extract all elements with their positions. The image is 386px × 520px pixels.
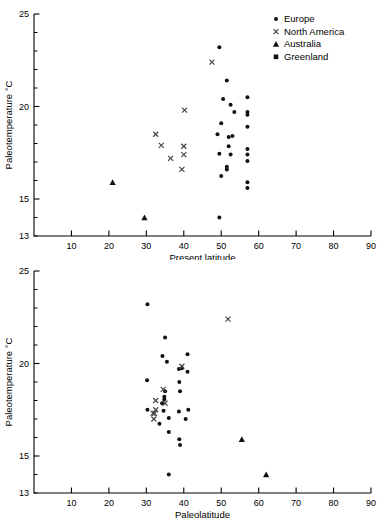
data-point-north-america: [274, 29, 279, 34]
legend-label-2: Australia: [284, 38, 322, 49]
data-point-north-america: [182, 108, 187, 113]
x-tick-label: 80: [329, 241, 339, 251]
data-point-australia: [239, 436, 245, 442]
data-point-europe: [274, 17, 278, 21]
data-point-europe: [186, 352, 190, 356]
data-point-australia: [263, 471, 269, 477]
y-tick-label: 20: [19, 102, 29, 112]
y-axis-title: Paleotemperature °C: [3, 80, 14, 169]
data-point-europe: [145, 302, 149, 306]
data-point-australia: [110, 179, 116, 185]
data-point-europe: [232, 110, 236, 114]
data-point-europe: [221, 97, 225, 101]
axis-frame: [34, 271, 371, 493]
data-point-north-america: [209, 60, 214, 65]
data-point-europe: [225, 167, 229, 171]
figure-container: 15202513102030405060708090Present latitu…: [0, 0, 386, 520]
series-north-america: [153, 60, 214, 172]
data-point-europe: [177, 437, 181, 441]
data-point-europe: [217, 216, 221, 220]
y-tick-label-min: 13: [19, 488, 29, 498]
scatter-plot-paleolatitude: 15202513102030405060708090PaleolatitudeP…: [0, 257, 386, 520]
data-point-north-america: [153, 398, 158, 403]
x-tick-label: 40: [179, 498, 189, 508]
series-australia: [239, 436, 270, 477]
data-point-north-america: [153, 132, 158, 137]
x-tick-label: 60: [254, 241, 264, 251]
data-point-europe: [245, 153, 249, 157]
data-point-europe: [230, 134, 234, 138]
y-tick-label: 25: [19, 9, 29, 19]
y-tick-label: 15: [19, 194, 29, 204]
x-tick-label: 70: [291, 241, 301, 251]
data-point-north-america: [168, 156, 173, 161]
legend-label-0: Europe: [284, 13, 315, 24]
data-point-north-america: [151, 417, 156, 422]
series-north-america: [151, 317, 231, 422]
chart-panel-present-latitude: 15202513102030405060708090Present latitu…: [0, 0, 386, 260]
x-tick-label: 70: [291, 498, 301, 508]
x-tick-label: 10: [66, 498, 76, 508]
data-point-europe: [167, 473, 171, 477]
x-tick-label: 50: [216, 498, 226, 508]
legend-label-1: North America: [284, 26, 345, 37]
data-point-europe: [229, 153, 233, 157]
x-tick-label: 60: [254, 498, 264, 508]
data-point-europe: [227, 135, 231, 139]
data-point-australia: [273, 41, 279, 47]
y-tick-label-min: 13: [19, 231, 29, 241]
data-point-north-america: [179, 167, 184, 172]
data-point-north-america: [225, 317, 230, 322]
data-point-greenland: [274, 55, 279, 60]
series-europe: [145, 302, 190, 476]
x-tick-label: 20: [104, 498, 114, 508]
y-axis-title: Paleotemperature °C: [3, 337, 14, 426]
data-point-north-america: [181, 144, 186, 149]
data-point-europe: [145, 378, 149, 382]
data-point-europe: [167, 416, 171, 420]
data-point-europe: [162, 409, 166, 413]
data-point-europe: [225, 79, 229, 83]
x-tick-label: 90: [366, 241, 376, 251]
x-tick-label: 90: [366, 498, 376, 508]
y-tick-label: 25: [19, 266, 29, 276]
data-point-europe: [217, 152, 221, 156]
x-tick-label: 40: [179, 241, 189, 251]
x-tick-label: 30: [141, 498, 151, 508]
data-point-europe: [186, 370, 190, 374]
x-tick-label: 50: [216, 241, 226, 251]
data-point-europe: [160, 354, 164, 358]
data-point-europe: [245, 186, 249, 190]
data-point-europe: [184, 417, 188, 421]
data-point-europe: [245, 159, 249, 163]
data-point-europe: [165, 360, 169, 364]
data-point-europe: [229, 103, 233, 107]
data-point-europe: [245, 180, 249, 184]
data-point-europe: [177, 410, 181, 414]
data-point-europe: [186, 408, 190, 412]
series-europe: [215, 45, 249, 219]
data-point-europe: [177, 380, 181, 384]
data-point-europe: [217, 45, 221, 49]
scatter-plot-present-latitude: 15202513102030405060708090Present latitu…: [0, 0, 386, 260]
x-tick-label: 30: [141, 241, 151, 251]
y-tick-label: 15: [19, 451, 29, 461]
data-point-europe: [219, 121, 223, 125]
series-australia: [110, 179, 148, 220]
y-tick-label: 20: [19, 359, 29, 369]
data-point-europe: [219, 174, 223, 178]
data-point-europe: [163, 336, 167, 340]
data-point-europe: [245, 147, 249, 151]
data-point-north-america: [159, 143, 164, 148]
x-tick-label: 20: [104, 241, 114, 251]
data-point-europe: [215, 132, 219, 136]
x-tick-label: 80: [329, 498, 339, 508]
data-point-north-america: [181, 152, 186, 157]
legend: EuropeNorth AmericaAustraliaGreenland: [273, 13, 345, 62]
data-point-australia: [141, 214, 147, 220]
data-point-europe: [167, 430, 171, 434]
data-point-europe: [227, 144, 231, 148]
x-tick-label: 10: [66, 241, 76, 251]
data-point-europe: [178, 443, 182, 447]
data-point-europe: [245, 95, 249, 99]
